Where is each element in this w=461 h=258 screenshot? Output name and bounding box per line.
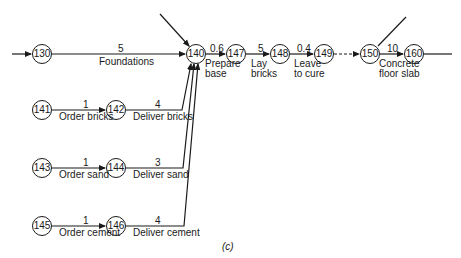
duration-order-cement: 1 (83, 216, 89, 226)
duration-deliver-bricks: 4 (155, 100, 161, 110)
label-order-cement: Order cement (59, 228, 120, 238)
duration-leave-to-cure: 0.4 (297, 44, 311, 54)
label-deliver-cement: Deliver cement (133, 228, 200, 238)
duration-order-sand: 1 (83, 158, 89, 168)
arrow-in-140-diagonal (160, 14, 189, 46)
duration-lay-bricks: 5 (258, 44, 264, 54)
figure-caption: (c) (222, 241, 234, 252)
node-148: 148 (270, 44, 290, 64)
network-diagram (0, 0, 461, 258)
duration-concrete-floor-slab: 10 (387, 44, 398, 54)
duration-foundations: 5 (118, 44, 124, 54)
label-order-bricks: Order bricks (59, 112, 113, 122)
node-143: 143 (32, 158, 52, 178)
duration-order-bricks: 1 (83, 100, 89, 110)
duration-deliver-cement: 4 (155, 216, 161, 226)
label-concrete-floor-slab-2: floor slab (379, 69, 420, 79)
node-141: 141 (32, 100, 52, 120)
label-deliver-bricks: Deliver bricks (133, 112, 193, 122)
label-lay-bricks-2: bricks (251, 69, 277, 79)
node-145: 145 (32, 216, 52, 236)
label-prepare-base-2: base (205, 69, 227, 79)
label-foundations: Foundations (99, 57, 154, 67)
label-order-sand: Order sand (59, 170, 109, 180)
node-150: 150 (360, 44, 380, 64)
arrow-deliver-cement (126, 64, 198, 226)
line-out-150-diagonal (378, 17, 406, 46)
node-140: 140 (186, 44, 206, 64)
label-deliver-sand: Deliver sand (133, 170, 189, 180)
node-130: 130 (32, 44, 52, 64)
label-leave-to-cure-2: to cure (294, 69, 325, 79)
duration-prepare-base: 0.6 (210, 44, 224, 54)
duration-deliver-sand: 3 (155, 158, 161, 168)
